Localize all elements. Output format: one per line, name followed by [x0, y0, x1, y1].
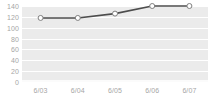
y-axis: 020406080100120140 — [0, 0, 22, 103]
x-axis: 6/036/046/056/066/07 — [22, 84, 208, 98]
gridline — [22, 49, 208, 50]
y-tick-label: 40 — [11, 57, 19, 64]
y-tick-label: 140 — [7, 3, 19, 10]
y-tick-label: 60 — [11, 46, 19, 53]
x-tick-label: 6/07 — [182, 87, 196, 95]
gridline — [22, 39, 208, 40]
plot-area — [22, 6, 208, 82]
gridline — [22, 6, 208, 7]
y-tick-label: 80 — [11, 35, 19, 42]
gridline — [22, 71, 208, 72]
y-tick-label: 0 — [15, 79, 19, 86]
gridline — [22, 80, 208, 82]
gridline — [22, 60, 208, 61]
gridline — [22, 17, 208, 18]
x-tick-label: 6/03 — [34, 87, 48, 95]
x-tick-label: 6/05 — [108, 87, 122, 95]
gridline — [22, 28, 208, 29]
x-tick-label: 6/04 — [71, 87, 85, 95]
y-tick-label: 100 — [7, 24, 19, 31]
y-tick-label: 120 — [7, 13, 19, 20]
line-chart: 020406080100120140 6/036/046/056/066/07 — [0, 0, 215, 103]
y-tick-label: 20 — [11, 68, 19, 75]
x-tick-label: 6/06 — [145, 87, 159, 95]
